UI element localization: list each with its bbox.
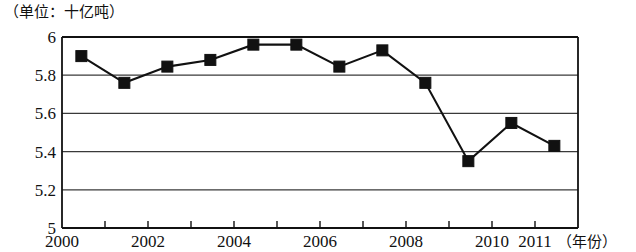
- chart-svg: 55.25.45.65.86 2000200220042006200820102…: [0, 0, 636, 252]
- data-point-2007: [377, 45, 388, 56]
- line-chart: 55.25.45.65.86 2000200220042006200820102…: [0, 0, 636, 252]
- unit-title-label: （单位：十亿吨）: [4, 4, 124, 20]
- data-point-2000: [76, 51, 87, 62]
- x-tick-label-2008: 2008: [389, 232, 423, 251]
- data-point-2004: [248, 39, 259, 50]
- data-point-2008: [420, 77, 431, 88]
- data-point-2002: [162, 61, 173, 72]
- x-axis-unit-label: （年份）: [557, 234, 617, 250]
- data-point-2010: [506, 117, 517, 128]
- x-tick-label-2000: 2000: [45, 232, 79, 251]
- data-point-2003: [205, 54, 216, 65]
- data-point-2006: [334, 61, 345, 72]
- y-tick-label-5-4: 5.4: [35, 143, 57, 162]
- x-tick-label-2006: 2006: [303, 232, 337, 251]
- y-tick-label-5-8: 5.8: [35, 66, 56, 85]
- y-tick-label-5-6: 5.6: [35, 104, 56, 123]
- x-tick-label-2010: 2010: [475, 232, 509, 251]
- x-tick-label-2004: 2004: [217, 232, 252, 251]
- x-tick-label-2002: 2002: [131, 232, 165, 251]
- data-point-2001: [119, 77, 130, 88]
- data-point-2005: [291, 39, 302, 50]
- data-point-2011: [549, 140, 560, 151]
- y-tick-label-5-2: 5.2: [35, 181, 56, 200]
- x-tick-label-2011: 2011: [518, 232, 551, 251]
- data-point-2009: [463, 156, 474, 167]
- y-tick-label-6: 6: [48, 28, 57, 47]
